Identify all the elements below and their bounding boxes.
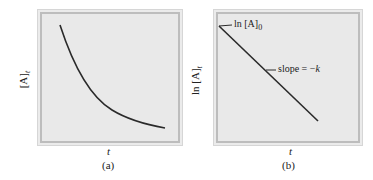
intercept-annotation: ln [A]0	[234, 18, 262, 32]
plot-b-xlabel: t	[289, 145, 292, 157]
plot-b-ylabel: ln [A]t	[189, 66, 204, 95]
plot-b-line	[0, 0, 373, 180]
slope-annotation: slope = −k	[278, 63, 320, 74]
plot-b-panel-label: (b)	[282, 159, 295, 171]
